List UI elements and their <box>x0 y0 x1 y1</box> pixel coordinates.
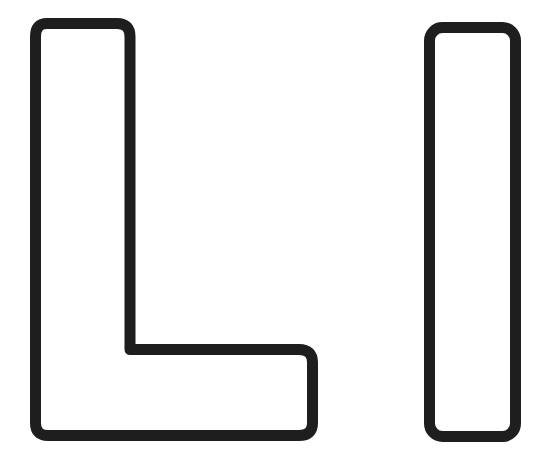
letter-l-outline <box>36 24 313 436</box>
letter-i-outline <box>430 28 516 437</box>
